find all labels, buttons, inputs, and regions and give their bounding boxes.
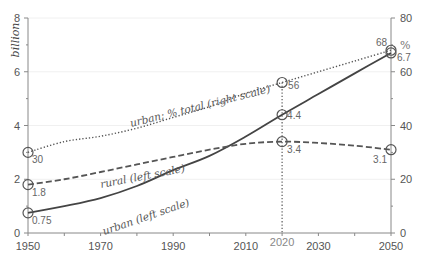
right-tick-label: 60 <box>400 66 412 78</box>
point-label: 1.8 <box>32 187 46 198</box>
left-tick-label: 6 <box>14 66 20 78</box>
chart: 0246802040608019501970199020102020203020… <box>0 0 422 261</box>
ticks: 0246802040608019501970199020102020203020… <box>14 12 412 252</box>
x-tick-label: 2050 <box>379 240 403 252</box>
x-tick-label: 1970 <box>88 240 112 252</box>
right-tick-label: 20 <box>400 173 412 185</box>
left-tick-label: 4 <box>14 120 20 132</box>
x-tick-label: 1990 <box>161 240 185 252</box>
x-tick-label: 2020 <box>270 236 294 248</box>
point-label: 4.4 <box>287 110 301 121</box>
point-label: 30 <box>32 154 44 165</box>
right-tick-label: 80 <box>400 12 412 24</box>
data-markers: 0.754.46.71.83.43.1305668 <box>23 37 411 226</box>
point-label: 68 <box>376 37 388 48</box>
left-tick-label: 0 <box>14 227 20 239</box>
right-tick-label: 0 <box>400 227 406 239</box>
left-tick-label: 8 <box>14 12 20 24</box>
left-tick-label: 2 <box>14 173 20 185</box>
point-label: 56 <box>288 80 300 91</box>
right-axis-label: % <box>400 39 410 52</box>
x-tick-label: 2030 <box>306 240 330 252</box>
point-label: 6.7 <box>397 52 411 63</box>
urban-percent-series-label: urban; % total (right scale) <box>129 82 272 129</box>
urban-series-label: urban (left scale) <box>101 196 191 237</box>
point-label: 3.1 <box>373 154 387 165</box>
urban-line <box>28 53 391 213</box>
series-labels: urban (left scale)rural (left scale)urba… <box>99 82 271 236</box>
rural-series-label: rural (left scale) <box>99 162 186 190</box>
series-lines <box>28 50 391 213</box>
right-tick-label: 40 <box>400 120 412 132</box>
rural-line <box>28 142 391 185</box>
point-label: 3.4 <box>287 144 301 155</box>
point-label: 0.75 <box>32 215 52 226</box>
x-tick-label: 2010 <box>234 240 258 252</box>
left-axis-label: billion <box>9 23 22 58</box>
x-tick-label: 1950 <box>16 240 40 252</box>
